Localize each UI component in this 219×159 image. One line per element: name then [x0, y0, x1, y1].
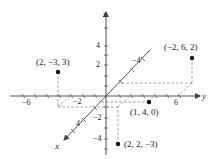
x-tick-4: 4 — [76, 120, 80, 128]
z-tick-2: 2 — [96, 61, 100, 69]
point-label-2-neg3-3: (2, −3, 3) — [36, 58, 70, 67]
y-axis-label: y — [202, 92, 206, 101]
z-tick-neg2: −2 — [93, 114, 102, 122]
point-label-neg2-6-2: (−2, 6, 2) — [164, 43, 198, 52]
y-tick-neg6: −6 — [22, 99, 31, 107]
point-2-2-neg3 — [116, 142, 120, 146]
point-2-neg3-3 — [56, 70, 60, 74]
axes-canvas — [0, 0, 219, 159]
z-axis — [104, 12, 108, 155]
y-tick-neg2: −2 — [73, 98, 82, 106]
point-label-2-2-neg3: (2, 2, −3) — [124, 140, 158, 149]
z-axis-label: z — [103, 10, 107, 19]
point-neg2-6-2 — [190, 56, 194, 60]
z-tick-4: 4 — [96, 42, 100, 50]
point-1-4-0 — [147, 100, 151, 104]
point-label-1-4-0: (1, 4, 0) — [130, 108, 159, 117]
y-tick-6: 6 — [174, 99, 178, 107]
x-axis-label: x — [55, 142, 59, 151]
z-tick-neg4: −4 — [93, 135, 102, 143]
3d-coordinate-diagram: z y x 4 2 −2 −4 −6 −2 6 −4 4 (2, −3, 3) … — [0, 0, 219, 159]
x-tick-neg4: −4 — [132, 57, 141, 65]
